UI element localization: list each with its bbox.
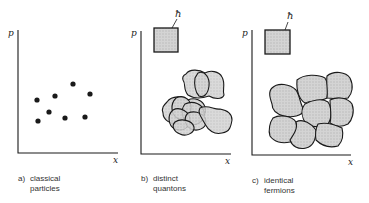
- hbar-label: ħ: [175, 8, 181, 19]
- caption-a: a)classical particles: [18, 174, 60, 194]
- particle-dot: [52, 93, 57, 98]
- caption-line1: distinct: [153, 174, 178, 183]
- caption-tag: b): [141, 174, 153, 184]
- p-axis-label: p: [131, 28, 137, 38]
- caption-line2: quantons: [141, 184, 186, 194]
- caption-line1: classical: [30, 174, 60, 183]
- particle-dot: [70, 81, 75, 86]
- planck-cell: [154, 28, 178, 52]
- phase-space-diagram: p x p x ħ p x ħ: [0, 0, 369, 203]
- packed-cells: [269, 72, 353, 148]
- overlapping-blobs: [162, 70, 232, 135]
- x-axis-label: x: [225, 156, 230, 166]
- caption-tag: c): [252, 176, 264, 186]
- caption-line2: particles: [18, 184, 60, 194]
- x-axis-label: x: [348, 157, 353, 167]
- caption-line1: identical: [264, 176, 293, 185]
- x-axis-label: x: [113, 155, 118, 165]
- caption-c: c)identical fermions: [252, 176, 295, 196]
- particle-dots: [34, 81, 92, 123]
- particle-dot: [62, 115, 67, 120]
- p-axis-label: p: [8, 28, 14, 38]
- axes: [18, 30, 118, 153]
- particle-dot: [46, 109, 51, 114]
- caption-b: b)distinct quantons: [141, 174, 186, 194]
- planck-cell: [265, 30, 290, 54]
- particle-dot: [35, 118, 40, 123]
- p-axis-label: p: [242, 28, 248, 38]
- panel-b-distinct-quantons: p x ħ: [131, 8, 232, 166]
- panel-c-identical-fermions: p x ħ: [242, 10, 353, 167]
- caption-line2: fermions: [252, 186, 295, 196]
- hbar-label: ħ: [287, 10, 293, 21]
- caption-tag: a): [18, 174, 30, 184]
- particle-dot: [34, 97, 39, 102]
- panel-a-classical-particles: p x: [8, 28, 118, 165]
- hbar-pointer: [172, 19, 177, 28]
- hbar-pointer: [285, 22, 288, 30]
- particle-dot: [82, 114, 87, 119]
- particle-dot: [87, 91, 92, 96]
